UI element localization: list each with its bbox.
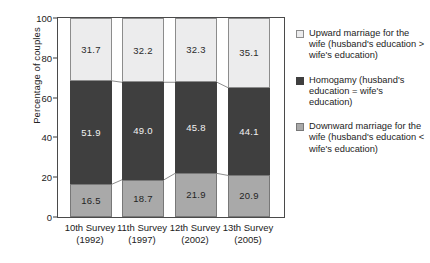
stacked-bar-chart: Percentage of couples 100806040200 16.55…	[0, 0, 430, 263]
bar-segment-up[interactable]: 32.3	[175, 18, 217, 82]
bar-segment-homo[interactable]: 44.1	[228, 88, 270, 176]
legend-swatch-up	[296, 30, 304, 38]
legend-label: Homogamy (husband's education = wife's e…	[309, 75, 428, 109]
legend-swatch-homo	[296, 77, 304, 85]
bar-segment-value: 45.8	[186, 123, 205, 133]
x-label-survey: 13th Survey	[223, 222, 274, 233]
x-axis-tick-label: 13th Survey(2005)	[208, 222, 288, 246]
bar-segment-value: 16.5	[81, 196, 100, 206]
stacked-bar[interactable]: 21.945.832.3	[175, 18, 217, 217]
legend-swatch-down	[296, 123, 304, 131]
bar-segment-value: 49.0	[133, 126, 152, 136]
connector-line	[112, 81, 122, 82]
stacked-bar[interactable]: 20.944.135.1	[228, 18, 270, 217]
legend-label: Upward marriage for the wife (husband's …	[309, 28, 428, 62]
bar-segment-value: 32.2	[133, 46, 152, 56]
bar-segment-up[interactable]: 31.7	[70, 18, 112, 81]
bar-segment-down[interactable]: 21.9	[175, 173, 217, 217]
bar-segment-value: 18.7	[133, 194, 152, 204]
y-axis-tick-label: 100	[36, 13, 52, 24]
bar-segment-down[interactable]: 16.5	[70, 184, 112, 217]
connector-line	[112, 180, 122, 184]
connector-line	[164, 173, 175, 179]
bar-segment-down[interactable]: 18.7	[122, 180, 164, 217]
bar-segment-homo[interactable]: 49.0	[122, 82, 164, 180]
bar-segment-value: 20.9	[239, 191, 258, 201]
y-axis-tick-label: 0	[47, 212, 52, 223]
stacked-bar[interactable]: 18.749.032.2	[122, 18, 164, 217]
bar-segment-value: 21.9	[186, 190, 205, 200]
connector-line	[217, 82, 228, 87]
bar-segment-value: 31.7	[81, 45, 100, 55]
y-axis-tick-label: 60	[41, 92, 52, 103]
legend-entry[interactable]: Upward marriage for the wife (husband's …	[296, 28, 428, 62]
y-axis-tick-label: 40	[41, 132, 52, 143]
y-axis-tick-labels: 100806040200	[22, 0, 52, 263]
connector-line	[217, 173, 228, 175]
bar-segment-value: 51.9	[81, 128, 100, 138]
bar-segment-homo[interactable]: 45.8	[175, 82, 217, 173]
legend-entry[interactable]: Homogamy (husband's education = wife's e…	[296, 75, 428, 109]
bar-segment-up[interactable]: 32.2	[122, 18, 164, 82]
bar-segment-value: 35.1	[239, 48, 258, 58]
chart-legend: Upward marriage for the wife (husband's …	[296, 28, 428, 168]
y-axis-tick-label: 80	[41, 52, 52, 63]
bar-segment-value: 44.1	[239, 127, 258, 137]
bar-segment-up[interactable]: 35.1	[228, 18, 270, 88]
plot-area: 16.551.931.718.749.032.221.945.832.320.9…	[57, 17, 285, 218]
stacked-bar[interactable]: 16.551.931.7	[70, 18, 112, 217]
bar-segment-value: 32.3	[186, 45, 205, 55]
bar-segment-homo[interactable]: 51.9	[70, 81, 112, 184]
legend-entry[interactable]: Downward marriage for the wife (husband'…	[296, 121, 428, 155]
y-axis-tick-label: 20	[41, 172, 52, 183]
legend-label: Downward marriage for the wife (husband'…	[309, 121, 428, 155]
x-label-year: (2005)	[208, 234, 288, 246]
bar-segment-down[interactable]: 20.9	[228, 175, 270, 217]
